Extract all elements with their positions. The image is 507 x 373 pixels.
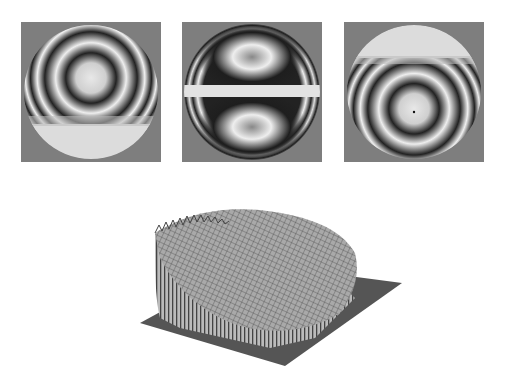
interferogram-panel-3 xyxy=(344,22,484,162)
interferogram-panel-2 xyxy=(182,22,322,162)
surface-plot-3d xyxy=(140,188,410,372)
interferogram-panel-1 xyxy=(21,22,161,162)
